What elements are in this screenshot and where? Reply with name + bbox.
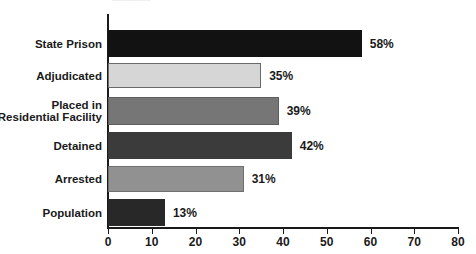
bar-row: Adjudicated35% bbox=[0, 63, 476, 88]
x-axis-tick bbox=[108, 229, 109, 234]
bar-category-label: Arrested bbox=[0, 173, 102, 185]
bar-row: State Prison58% bbox=[0, 30, 476, 57]
bar bbox=[108, 97, 279, 125]
bar-row: Placed in Residential Facility39% bbox=[0, 97, 476, 125]
x-axis-tick-label: 70 bbox=[394, 235, 434, 249]
x-axis-tick-label: 30 bbox=[219, 235, 259, 249]
bar-category-label: State Prison bbox=[0, 38, 102, 50]
x-axis-tick bbox=[327, 229, 328, 234]
x-axis-tick-label: 0 bbox=[88, 235, 128, 249]
bar-row: Arrested31% bbox=[0, 166, 476, 192]
bar-row: Detained42% bbox=[0, 132, 476, 159]
bar-category-label: Population bbox=[0, 207, 102, 219]
bar-row: Population13% bbox=[0, 199, 476, 226]
x-axis-tick-label: 80 bbox=[438, 235, 476, 249]
x-axis-tick-label: 20 bbox=[176, 235, 216, 249]
bar-category-label: Placed in Residential Facility bbox=[0, 99, 102, 123]
bar bbox=[108, 166, 244, 192]
x-axis-tick bbox=[283, 229, 284, 234]
bar-value-label: 13% bbox=[173, 206, 197, 220]
bar-chart: •••••••••••• 01020304050607080 State Pri… bbox=[0, 0, 476, 254]
bar-value-label: 58% bbox=[370, 37, 394, 51]
x-axis-tick-label: 40 bbox=[263, 235, 303, 249]
x-axis-tick bbox=[239, 229, 240, 234]
bar-value-label: 31% bbox=[252, 172, 276, 186]
clipped-title-fragment: •••••••••••• bbox=[112, 0, 232, 1]
x-axis-tick bbox=[152, 229, 153, 234]
bar-value-label: 35% bbox=[269, 69, 293, 83]
bar bbox=[108, 30, 362, 57]
bar bbox=[108, 199, 165, 226]
x-axis-tick-label: 60 bbox=[351, 235, 391, 249]
bar bbox=[108, 132, 292, 159]
x-axis-tick-label: 10 bbox=[132, 235, 172, 249]
x-axis-tick-label: 50 bbox=[307, 235, 347, 249]
x-axis-tick bbox=[458, 229, 459, 234]
x-axis-tick bbox=[196, 229, 197, 234]
bar-category-label: Adjudicated bbox=[0, 70, 102, 82]
bar-category-label: Detained bbox=[0, 140, 102, 152]
bar-value-label: 42% bbox=[300, 139, 324, 153]
x-axis-tick bbox=[371, 229, 372, 234]
bar-value-label: 39% bbox=[287, 104, 311, 118]
bar bbox=[108, 63, 261, 88]
x-axis-tick bbox=[414, 229, 415, 234]
